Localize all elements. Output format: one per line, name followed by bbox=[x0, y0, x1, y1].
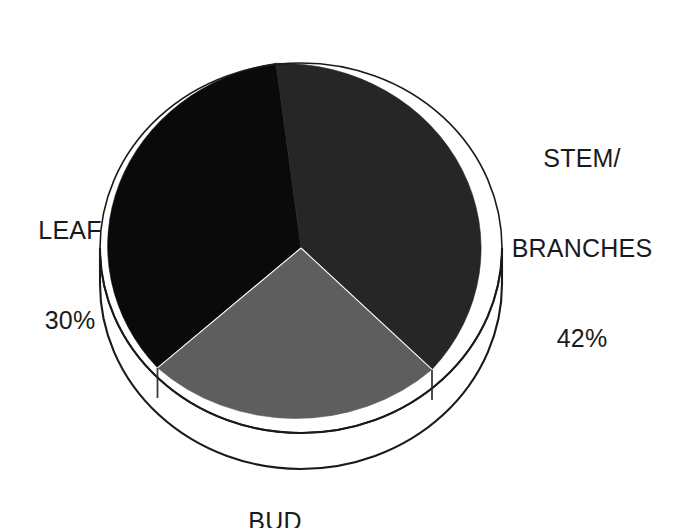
pie-label-bud: BUD 28% bbox=[215, 446, 335, 528]
pie-label-leaf-line1: LEAF bbox=[18, 215, 122, 245]
pie-label-stem-branches-line2: BRANCHES bbox=[506, 233, 658, 263]
pie-chart-figure: STEM/ BRANCHES 42% LEAF 30% BUD 28% bbox=[0, 0, 673, 528]
pie-label-stem-branches: STEM/ BRANCHES 42% bbox=[506, 83, 658, 413]
pie-label-leaf-value: 30% bbox=[18, 305, 122, 335]
pie-label-stem-branches-value: 42% bbox=[506, 323, 658, 353]
pie-label-stem-branches-line1: STEM/ bbox=[506, 143, 658, 173]
pie-label-leaf: LEAF 30% bbox=[18, 155, 122, 395]
pie-label-bud-line1: BUD bbox=[215, 506, 335, 528]
